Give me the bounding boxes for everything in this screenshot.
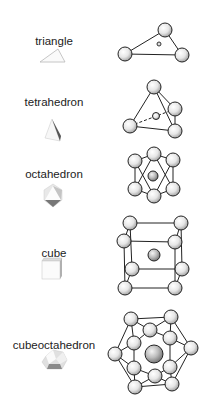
cubeoctahedron-icon — [42, 350, 67, 369]
cubeoctahedron-structure — [108, 310, 198, 394]
cube-structure — [117, 216, 189, 295]
tetrahedron-icon — [45, 119, 61, 141]
coordination-diagram — [0, 0, 206, 409]
triangle-structure — [118, 23, 189, 62]
cube-icon — [42, 258, 62, 279]
tetrahedron-structure — [123, 80, 182, 138]
octahedron-icon — [44, 184, 62, 207]
triangle-icon — [40, 49, 65, 62]
octahedron-structure — [128, 147, 180, 203]
